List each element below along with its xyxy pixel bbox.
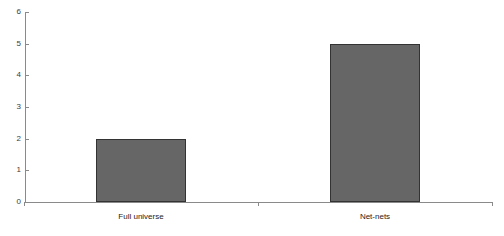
y-axis-tick-label: 1 [5, 166, 21, 174]
y-axis-tick-label-wrap: 2 [0, 139, 30, 140]
bar-chart: 0123456 Full universeNet-nets [0, 0, 504, 236]
y-axis-tick-label: 4 [5, 71, 21, 79]
y-axis-tick-label-wrap: 3 [0, 107, 30, 108]
x-axis-label: Full universe [24, 212, 258, 222]
y-axis-tick-label-wrap: 0 [0, 202, 30, 203]
y-axis-tick-label: 6 [5, 8, 21, 16]
y-axis-tick-label-wrap: 5 [0, 44, 30, 45]
bar [330, 44, 420, 202]
bar [96, 139, 186, 202]
y-axis-tick-label: 2 [5, 135, 21, 143]
x-axis-boundary-tick [492, 202, 493, 206]
y-axis-tick-label-wrap: 4 [0, 75, 30, 76]
x-axis-boundary-tick [258, 202, 259, 206]
y-axis-tick-label-wrap: 1 [0, 170, 30, 171]
y-axis-tick-label-wrap: 6 [0, 12, 30, 13]
y-axis-tick-label: 3 [5, 103, 21, 111]
x-axis-label: Net-nets [258, 212, 492, 222]
x-axis-boundary-tick [24, 202, 25, 206]
plot-area: 0123456 Full universeNet-nets [0, 0, 504, 236]
y-axis-tick-label: 0 [5, 198, 21, 206]
y-axis-tick-label: 5 [5, 40, 21, 48]
